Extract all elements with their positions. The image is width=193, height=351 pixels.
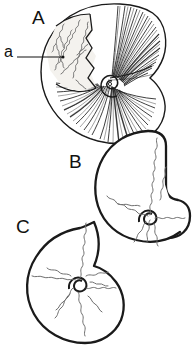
annotation-label-a: a: [4, 44, 13, 60]
panel-label-A: A: [32, 8, 45, 27]
ammonite-figure-plate: [0, 0, 193, 351]
panel-label-B: B: [69, 152, 82, 171]
panel-label-C: C: [16, 217, 30, 236]
figure-canvas: [0, 0, 193, 351]
